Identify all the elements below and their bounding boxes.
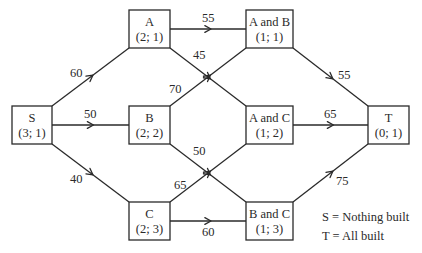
edge-weight-label: 60 xyxy=(70,66,83,80)
edge-weight-label: 65 xyxy=(324,107,337,121)
node-coordinates: (1; 3) xyxy=(256,222,283,236)
legend: S = Nothing built T = All built xyxy=(322,210,410,243)
edge-line xyxy=(293,144,368,202)
node-c: C(2; 3) xyxy=(129,202,170,240)
edge-line xyxy=(52,48,129,106)
node-s: S(3; 1) xyxy=(12,106,52,144)
edge-bc-to-t: 75 xyxy=(293,144,368,202)
edge-weight-label: 65 xyxy=(174,178,187,192)
edge-ac-to-t: 65 xyxy=(293,107,368,128)
node-label: A and C xyxy=(249,111,290,125)
edge-weight-label: 70 xyxy=(169,82,182,96)
edge-weight-label: 55 xyxy=(202,11,215,25)
node-label: A xyxy=(145,15,154,29)
node-coordinates: (1; 2) xyxy=(256,126,283,140)
edges: 605040554570506560556575 xyxy=(52,11,368,239)
edge-weight-label: 50 xyxy=(84,107,97,121)
node-ac: A and C(1; 2) xyxy=(246,106,293,144)
edge-ab-to-t: 55 xyxy=(293,48,368,106)
node-ab: A and B(1; 1) xyxy=(246,10,293,48)
node-label: A and B xyxy=(249,15,290,29)
node-label: B xyxy=(145,111,153,125)
edge-weight-label: 50 xyxy=(193,144,206,158)
edge-s-to-c: 40 xyxy=(52,144,129,202)
edge-weight-label: 40 xyxy=(70,172,83,186)
edge-weight-label: 45 xyxy=(193,48,206,62)
node-a: A(2; 1) xyxy=(129,10,170,48)
node-coordinates: (1; 1) xyxy=(256,30,283,44)
edge-weight-label: 55 xyxy=(338,68,351,82)
node-t: T(0; 1) xyxy=(368,106,409,144)
node-label: T xyxy=(385,111,393,125)
network-diagram: 605040554570506560556575 S(3; 1)A(2; 1)B… xyxy=(0,0,422,253)
edge-weight-label: 75 xyxy=(336,174,349,188)
legend-start-definition: S = Nothing built xyxy=(322,210,410,224)
node-b: B(2; 2) xyxy=(129,106,170,144)
node-coordinates: (2; 1) xyxy=(136,30,163,44)
node-bc: B and C(1; 3) xyxy=(246,202,293,240)
node-coordinates: (2; 2) xyxy=(136,126,163,140)
node-label: B and C xyxy=(249,207,290,221)
legend-target-definition: T = All built xyxy=(322,229,385,243)
edge-s-to-b: 50 xyxy=(52,107,129,128)
edge-c-to-bc: 60 xyxy=(170,218,246,239)
edge-a-to-ab: 55 xyxy=(170,11,246,32)
edge-line xyxy=(52,144,129,202)
node-coordinates: (2; 3) xyxy=(136,222,163,236)
edge-line xyxy=(293,48,368,106)
node-coordinates: (3; 1) xyxy=(18,126,45,140)
node-label: C xyxy=(145,207,153,221)
node-label: S xyxy=(29,111,36,125)
edge-s-to-a: 60 xyxy=(52,48,129,106)
node-coordinates: (0; 1) xyxy=(375,126,402,140)
edge-weight-label: 60 xyxy=(202,225,215,239)
